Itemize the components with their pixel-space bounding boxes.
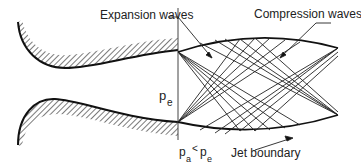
lower-nozzle-wall xyxy=(18,99,178,147)
exit-pressure-subscript: e xyxy=(167,97,173,108)
less-than-sign: < xyxy=(192,143,198,154)
exit-pressure-label: p xyxy=(159,88,166,103)
compression-waves-label: Compression waves xyxy=(254,7,361,21)
expansion-waves-label: Expansion waves xyxy=(100,8,193,22)
ambient-pressure-subscript: a xyxy=(186,154,191,164)
jet-boundary-upper xyxy=(178,38,338,52)
expansion-waves xyxy=(178,38,338,134)
exit-pressure-compare-subscript: e xyxy=(207,154,212,164)
jet-boundary-label: Jet boundary xyxy=(231,146,300,160)
upper-nozzle-wall xyxy=(18,20,178,68)
jet-boundary-lower xyxy=(178,115,338,130)
exit-pressure-compare-label: p xyxy=(200,145,207,159)
nozzle-jet-diagram: Expansion waves Compression waves p e p … xyxy=(0,0,361,165)
ambient-pressure-label: p xyxy=(179,145,186,159)
